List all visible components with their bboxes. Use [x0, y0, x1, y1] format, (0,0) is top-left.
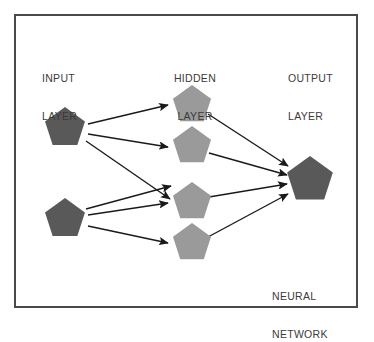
output-layer-label-line1: OUTPUT — [288, 72, 333, 85]
hidden-layer-label: HIDDEN LAYER — [164, 47, 226, 147]
edge-input2-hidden2 — [86, 186, 171, 209]
edge-input1-hidden2 — [88, 134, 168, 147]
edge-input2-hidden4 — [88, 226, 168, 243]
diagram-title-line2: NETWORK — [272, 328, 328, 341]
hidden-node-4 — [173, 223, 211, 259]
diagram-title-line1: NEURAL — [272, 290, 328, 303]
hidden-layer-label-line1: HIDDEN — [164, 72, 226, 85]
edge-hidden3-output — [209, 184, 287, 197]
hidden-node-3 — [173, 182, 211, 218]
output-node-1 — [287, 156, 333, 199]
input-layer-label-line1: INPUT — [42, 72, 77, 85]
diagram-title: NEURAL NETWORK — [272, 265, 328, 342]
edge-hidden2-output — [209, 153, 287, 175]
input-layer-label-line2: LAYER — [42, 110, 77, 123]
output-layer-label-line2: LAYER — [288, 110, 333, 123]
input-node-2 — [45, 198, 85, 236]
input-layer-label: INPUT LAYER — [42, 47, 77, 147]
hidden-layer-label-line2: LAYER — [164, 110, 226, 123]
edge-hidden4-output — [208, 194, 288, 237]
output-layer-label: OUTPUT LAYER — [288, 47, 333, 147]
edge-input1-hidden1 — [88, 105, 168, 124]
